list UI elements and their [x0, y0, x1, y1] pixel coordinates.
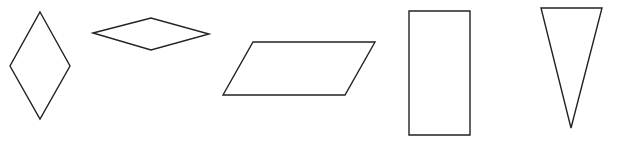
rectangle-shape [409, 11, 470, 135]
rhombus-horizontal-shape [93, 18, 209, 50]
rhombus-vertical-shape [10, 12, 70, 119]
shapes-diagram [0, 0, 625, 146]
triangle-inverted-shape [541, 8, 602, 128]
parallelogram-shape [223, 42, 375, 95]
